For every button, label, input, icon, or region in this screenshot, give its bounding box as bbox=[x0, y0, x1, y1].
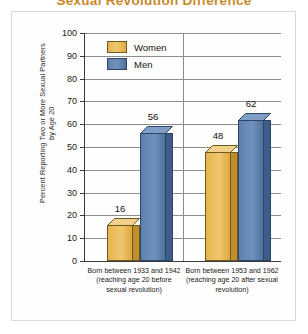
bar-front-face bbox=[238, 120, 264, 261]
ytick-30 bbox=[80, 193, 85, 194]
ytick-40 bbox=[80, 170, 85, 171]
ytick-label-70: 70 bbox=[67, 96, 77, 106]
ytick-100 bbox=[80, 33, 85, 34]
ytick-label-20: 20 bbox=[67, 210, 77, 220]
ytick-50 bbox=[80, 147, 85, 148]
group-divider bbox=[183, 33, 184, 261]
ytick-80 bbox=[80, 79, 85, 80]
bar-value-label: 48 bbox=[213, 130, 224, 141]
bar-side-face bbox=[231, 152, 238, 261]
ytick-label-30: 30 bbox=[67, 188, 77, 198]
bar-front-face bbox=[107, 225, 133, 261]
ytick-90 bbox=[80, 56, 85, 57]
ytick-60 bbox=[80, 124, 85, 125]
ytick-label-80: 80 bbox=[67, 74, 77, 84]
ytick-20 bbox=[80, 215, 85, 216]
legend-swatch-women-icon bbox=[107, 41, 127, 53]
bar-front-face bbox=[140, 133, 166, 261]
bar-women-group2[interactable]: 48 bbox=[205, 152, 231, 261]
ytick-label-90: 90 bbox=[67, 51, 77, 61]
bar-men-group1[interactable]: 56 bbox=[140, 133, 166, 261]
bar-women-group1[interactable]: 16 bbox=[107, 225, 133, 261]
bar-value-label: 16 bbox=[115, 203, 126, 214]
ytick-label-50: 50 bbox=[67, 142, 77, 152]
legend-label-men: Men bbox=[134, 59, 152, 70]
bar-value-label: 56 bbox=[148, 111, 159, 122]
bar-front-face bbox=[205, 152, 231, 261]
bar-side-face bbox=[264, 120, 271, 261]
legend-item-men[interactable]: Men bbox=[107, 58, 167, 70]
y-axis-title: Percent Reporting Two or More Sexual Par… bbox=[38, 43, 56, 203]
ytick-label-100: 100 bbox=[62, 28, 77, 38]
ytick-label-0: 0 bbox=[72, 256, 77, 266]
ytick-10 bbox=[80, 238, 85, 239]
bar-men-group2[interactable]: 62 bbox=[238, 120, 264, 261]
chart-legend: Women Men bbox=[107, 41, 167, 75]
x-label-group1: Born between 1933 and 1942 (reaching age… bbox=[85, 267, 183, 319]
x-axis-category-labels: Born between 1933 and 1942 (reaching age… bbox=[85, 267, 281, 319]
x-label-group2: Born between 1953 and 1962 (reaching age… bbox=[183, 267, 281, 319]
legend-label-women: Women bbox=[134, 42, 167, 53]
ytick-0 bbox=[80, 261, 85, 262]
figure-title: Sexual Revolution Difference bbox=[0, 0, 308, 7]
bar-value-label: 62 bbox=[246, 98, 257, 109]
bar-side-face bbox=[133, 225, 140, 261]
ytick-label-40: 40 bbox=[67, 165, 77, 175]
ytick-70 bbox=[80, 101, 85, 102]
legend-swatch-men-icon bbox=[107, 58, 127, 70]
bar-side-face bbox=[166, 133, 173, 261]
ytick-label-10: 10 bbox=[67, 233, 77, 243]
ytick-label-60: 60 bbox=[67, 119, 77, 129]
gridline-0 bbox=[85, 261, 281, 262]
legend-item-women[interactable]: Women bbox=[107, 41, 167, 53]
chart-container: Percent Reporting Two or More Sexual Par… bbox=[11, 11, 296, 321]
